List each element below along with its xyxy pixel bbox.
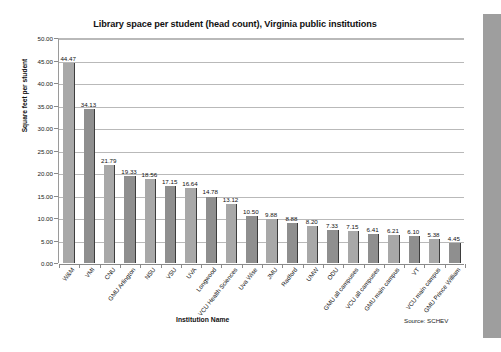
- x-tick-mark: [445, 264, 446, 268]
- y-tick-mark: [54, 218, 58, 219]
- x-category-label: VSU: [164, 266, 177, 280]
- y-tick-mark: [54, 173, 58, 174]
- y-tick-mark: [54, 151, 58, 152]
- x-category-label-wrap: VCU all campuses: [375, 266, 376, 267]
- bar-value-label: 17.15: [162, 178, 177, 185]
- bar-value-label: 10.50: [243, 208, 258, 215]
- x-axis-title: Institution Name: [176, 316, 229, 323]
- y-tick-label: 10.00: [13, 215, 53, 222]
- y-tick-label: 30.00: [13, 125, 53, 132]
- x-tick-mark: [201, 264, 202, 268]
- bar-slot: [206, 39, 217, 263]
- x-tick-mark: [221, 264, 222, 268]
- y-tick-mark: [54, 196, 58, 197]
- right-side-panel: [483, 14, 501, 338]
- bar[interactable]: [145, 179, 156, 263]
- bar-chart: Library space per student (head count), …: [0, 0, 501, 352]
- bar[interactable]: [206, 197, 217, 264]
- x-category-label-wrap: Uva Wise: [253, 266, 254, 267]
- x-category-label: ODU: [326, 266, 340, 281]
- gridline: [59, 39, 464, 40]
- x-tick-mark: [140, 264, 141, 268]
- x-category-label-wrap: UMW: [314, 266, 315, 267]
- bar[interactable]: [104, 165, 115, 263]
- x-category-label-wrap: CNU: [111, 266, 112, 267]
- y-tick-label: 20.00: [13, 170, 53, 177]
- gridline: [59, 107, 464, 108]
- x-category-label: GMU Prince William: [422, 266, 462, 314]
- bar[interactable]: [84, 109, 95, 263]
- x-category-label: W&M: [61, 266, 76, 282]
- bar-value-label: 6.41: [367, 226, 379, 233]
- plot-area: [58, 38, 464, 263]
- gridline: [59, 219, 464, 220]
- bar-value-label: 34.13: [81, 101, 96, 108]
- x-category-label-wrap: UVA: [192, 266, 193, 267]
- x-category-label: UMW: [304, 266, 319, 282]
- bar[interactable]: [429, 239, 440, 263]
- x-tick-mark: [465, 264, 466, 268]
- x-tick-mark: [59, 264, 60, 268]
- y-tick-mark: [54, 38, 58, 39]
- x-tick-mark: [303, 264, 304, 268]
- bar-value-label: 6.21: [387, 227, 399, 234]
- bar-slot: [287, 39, 298, 263]
- bar-value-label: 18.56: [142, 171, 157, 178]
- bar-value-label: 44.47: [60, 55, 75, 62]
- y-tick-label: 25.00: [13, 148, 53, 155]
- x-category-label-wrap: VT: [415, 266, 416, 267]
- bar[interactable]: [165, 186, 176, 263]
- bar[interactable]: [185, 188, 196, 263]
- bar[interactable]: [226, 204, 237, 263]
- bar-value-label: 19.33: [121, 168, 136, 175]
- bar-value-label: 7.33: [326, 222, 338, 229]
- bar[interactable]: [246, 216, 257, 263]
- bar[interactable]: [124, 176, 135, 263]
- bar-slot: [327, 39, 338, 263]
- x-tick-mark: [100, 264, 101, 268]
- bar[interactable]: [348, 231, 359, 263]
- gridline: [59, 129, 464, 130]
- bar-slot: [124, 39, 135, 263]
- bar-value-label: 8.88: [285, 215, 297, 222]
- bar-slot: [429, 39, 440, 263]
- bar[interactable]: [266, 219, 277, 263]
- x-category-label-wrap: GMU Arlington: [131, 266, 132, 267]
- x-category-label: Uva Wise: [237, 266, 259, 291]
- bar[interactable]: [368, 234, 379, 263]
- x-category-label-wrap: Longwood: [212, 266, 213, 267]
- x-tick-mark: [282, 264, 283, 268]
- x-category-label-wrap: VCU Health Sciences: [233, 266, 234, 267]
- y-tick-mark: [54, 106, 58, 107]
- x-category-label-wrap: GMU main campus: [395, 266, 396, 267]
- x-category-label: JMU: [265, 266, 278, 280]
- bar[interactable]: [307, 226, 318, 263]
- bar[interactable]: [63, 63, 74, 263]
- x-category-label: Radford: [280, 266, 299, 288]
- bar-slot: [84, 39, 95, 263]
- y-tick-label: 40.00: [13, 80, 53, 87]
- bar[interactable]: [287, 223, 298, 263]
- y-tick-mark: [54, 61, 58, 62]
- x-tick-mark: [343, 264, 344, 268]
- x-tick-mark: [323, 264, 324, 268]
- gridline: [59, 197, 464, 198]
- bar[interactable]: [449, 243, 460, 263]
- bar[interactable]: [388, 235, 399, 263]
- bar-slot: [226, 39, 237, 263]
- y-tick-label: 50.00: [13, 35, 53, 42]
- y-tick-label: 35.00: [13, 103, 53, 110]
- y-tick-mark: [54, 83, 58, 84]
- y-tick-label: 45.00: [13, 58, 53, 65]
- bar[interactable]: [409, 236, 420, 263]
- gridline: [59, 152, 464, 153]
- x-tick-mark: [404, 264, 405, 268]
- bar-value-label: 6.10: [407, 228, 419, 235]
- bar-value-label: 5.38: [428, 231, 440, 238]
- bar[interactable]: [327, 230, 338, 263]
- chart-title: Library space per student (head count), …: [0, 19, 470, 29]
- bar-value-label: 7.15: [346, 223, 358, 230]
- y-axis-title: Square feet per student: [21, 36, 28, 156]
- bar-value-label: 16.64: [182, 180, 197, 187]
- x-category-label-wrap: GMU Prince William: [456, 266, 457, 267]
